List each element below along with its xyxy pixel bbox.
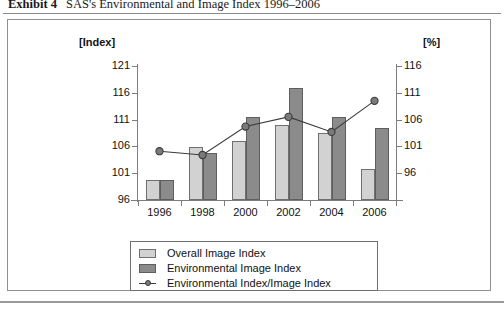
right-axis-unit: [%] bbox=[423, 36, 440, 48]
right-tick-label-96: 96 bbox=[404, 167, 438, 178]
plot-area bbox=[138, 66, 396, 200]
legend-label-ratio: Environmental Index/Image Index bbox=[167, 277, 331, 289]
exhibit-title-caption: SAS's Environmental and Image Index 1996… bbox=[66, 0, 320, 11]
ratio-marker-2006 bbox=[371, 97, 378, 104]
x-axis-label-2002: 2002 bbox=[266, 206, 312, 218]
left-tick-label-116: 116 bbox=[96, 87, 130, 98]
right-tick-106 bbox=[397, 120, 402, 121]
right-tick-96 bbox=[397, 173, 402, 174]
ratio-marker-2004 bbox=[328, 128, 335, 135]
left-tick-label-121: 121 bbox=[96, 60, 130, 71]
right-tick-label-106: 106 bbox=[404, 114, 438, 125]
x-axis-label-2004: 2004 bbox=[309, 206, 355, 218]
ratio-marker-1998 bbox=[199, 151, 206, 158]
ratio-marker-1996 bbox=[156, 148, 163, 155]
legend-item-environmental-image-index: Environmental Image Index bbox=[139, 261, 377, 275]
left-tick-label-111: 111 bbox=[96, 114, 130, 125]
right-tick-label-101: 101 bbox=[404, 140, 438, 151]
exhibit-figure-page: Exhibit 4SAS's Environmental and Image I… bbox=[0, 0, 504, 310]
x-axis-label-2000: 2000 bbox=[223, 206, 269, 218]
left-tick-label-96: 96 bbox=[96, 194, 130, 205]
right-tick-label-116: 116 bbox=[404, 60, 438, 71]
right-tick-111 bbox=[397, 93, 402, 94]
left-tick-111 bbox=[132, 120, 137, 121]
left-tick-116 bbox=[132, 93, 137, 94]
title-divider bbox=[3, 13, 501, 14]
legend-line-marker-icon bbox=[139, 279, 156, 288]
exhibit-title: Exhibit 4SAS's Environmental and Image I… bbox=[0, 0, 504, 13]
x-axis-label-2006: 2006 bbox=[352, 206, 398, 218]
left-tick-label-106: 106 bbox=[96, 140, 130, 151]
legend-swatch-environmental-icon bbox=[139, 264, 156, 273]
ratio-line-path bbox=[160, 101, 375, 155]
left-tick-label-101: 101 bbox=[96, 167, 130, 178]
ratio-marker-2000 bbox=[242, 123, 249, 130]
left-tick-101 bbox=[132, 173, 137, 174]
right-tick-116 bbox=[397, 66, 402, 67]
legend-label-environmental: Environmental Image Index bbox=[167, 262, 301, 274]
right-tick-label-111: 111 bbox=[404, 87, 438, 98]
right-axis-line bbox=[396, 64, 397, 202]
exhibit-title-label: Exhibit 4 bbox=[8, 0, 57, 11]
page-bottom-divider bbox=[0, 301, 504, 303]
right-tick-101 bbox=[397, 146, 402, 147]
left-axis-unit: [Index] bbox=[79, 36, 115, 48]
left-tick-106 bbox=[132, 146, 137, 147]
legend-item-environmental-ratio: Environmental Index/Image Index bbox=[139, 276, 377, 290]
ratio-line-series bbox=[138, 66, 396, 200]
legend-label-overall: Overall Image Index bbox=[167, 247, 265, 259]
legend-swatch-overall-icon bbox=[139, 249, 156, 258]
ratio-marker-2002 bbox=[285, 113, 292, 120]
chart-legend: Overall Image Index Environmental Image … bbox=[130, 241, 378, 291]
left-tick-96 bbox=[132, 200, 137, 201]
x-axis-label-1998: 1998 bbox=[180, 206, 226, 218]
x-axis-label-1996: 1996 bbox=[137, 206, 183, 218]
left-tick-121 bbox=[132, 66, 137, 67]
legend-item-overall-image-index: Overall Image Index bbox=[139, 246, 377, 260]
